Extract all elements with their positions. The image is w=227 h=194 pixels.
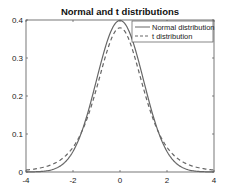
legend: Normal distribution t distribution	[132, 21, 215, 42]
chart: Normal and t distributions 00.10.20.30.4…	[0, 0, 227, 194]
x-tick-label: -4	[22, 176, 30, 185]
x-tick-label: 4	[212, 176, 217, 185]
y-tick-label: 0.2	[12, 92, 24, 101]
x-tick-label: 2	[165, 176, 170, 185]
x-tick-label: -2	[69, 176, 77, 185]
y-tick-label: 0.3	[12, 54, 24, 63]
legend-label-t: t distribution	[152, 32, 192, 41]
chart-title: Normal and t distributions	[61, 6, 179, 17]
y-tick-label: 0.1	[12, 130, 24, 139]
y-tick-label: 0.4	[12, 16, 24, 25]
plot-area	[26, 20, 214, 172]
x-tick-label: 0	[118, 176, 123, 185]
legend-label-normal: Normal distribution	[152, 23, 215, 32]
